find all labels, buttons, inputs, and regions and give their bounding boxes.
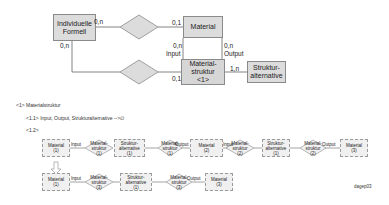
- cardinality: 0,1: [172, 75, 181, 82]
- cardinality: 0,n: [94, 18, 103, 25]
- edge-label-input: Input: [71, 142, 81, 147]
- entity-material: Material: [183, 16, 223, 38]
- instance-strukturalternative-1: Struktur- alternative (1): [114, 139, 145, 157]
- label: (2): [230, 151, 250, 156]
- note-line-2: <1.1> Input, Output, Strukturalternative…: [26, 115, 124, 121]
- instance-materialstruktur: Material- struktur (1): [89, 141, 109, 156]
- instance-material-3: Material (3): [340, 139, 368, 157]
- cardinality: 0,n: [60, 42, 69, 49]
- edge-label-output: Output: [187, 176, 201, 181]
- box-id: (1): [273, 151, 279, 156]
- box-id: (2): [204, 148, 210, 153]
- instance-material-3: Material (3): [205, 173, 233, 191]
- entity-label: <1>: [197, 76, 209, 84]
- box-id: (1): [53, 148, 59, 153]
- entity-label: Individuelle Formell: [54, 20, 95, 36]
- entity-strukturalternative: Struktur- alternative: [247, 61, 286, 83]
- cardinality: 0,n: [224, 42, 233, 49]
- cardinality: 0,n: [173, 42, 182, 49]
- instance-materialstruktur: Material- struktur (3): [89, 175, 109, 190]
- note-line-1: <1> Materialstruktur: [16, 102, 60, 108]
- label: (1): [89, 151, 109, 156]
- instance-material-1: Material (1): [42, 139, 70, 157]
- edge-label-output: Output: [175, 142, 189, 147]
- entity-individuelle-formel: Individuelle Formell: [53, 14, 96, 41]
- instance-materialstruktur: Material- struktur (2): [303, 141, 323, 156]
- entity-materialstruktur: Material- struktur <1>: [181, 59, 225, 85]
- relationship-diamond-bottom: [120, 60, 158, 84]
- instance-material-1: Material (1): [42, 173, 70, 191]
- entity-label: Struktur-: [253, 64, 280, 72]
- edge-label-input: Input: [71, 176, 81, 181]
- figure-id: dagep03: [354, 184, 372, 190]
- relationship-diamond-top: [120, 15, 158, 39]
- instance-material-2: Material (2): [190, 139, 223, 157]
- role-label: Output: [224, 50, 244, 57]
- instance-strukturalternative-1: Struktur- alternative (1): [120, 173, 152, 191]
- entity-label: Material: [191, 23, 216, 31]
- instance-materialstruktur: Material- struktur (2): [230, 141, 250, 156]
- entity-label: Material-: [189, 60, 216, 68]
- box-id: (1): [133, 185, 139, 190]
- box-id: (1): [53, 182, 59, 187]
- role-label: Input: [166, 50, 180, 57]
- entity-label: struktur: [191, 68, 214, 76]
- label: (3): [169, 185, 189, 190]
- box-id: (1): [127, 151, 133, 156]
- box-id: (3): [351, 148, 357, 153]
- cardinality: 1,n: [230, 65, 239, 72]
- instance-materialstruktur: Material- struktur (3): [169, 175, 189, 190]
- label: (2): [303, 151, 323, 156]
- label: (3): [89, 185, 109, 190]
- box-id: (3): [216, 182, 222, 187]
- edge-label-output: Output: [322, 142, 336, 147]
- note-line-3: <1.2>: [26, 127, 39, 133]
- instance-strukturalternative-2: Struktur- alternative (1): [262, 139, 290, 157]
- cardinality: 0,1: [172, 19, 181, 26]
- label: (1): [160, 151, 180, 156]
- entity-label: alternative: [250, 72, 282, 80]
